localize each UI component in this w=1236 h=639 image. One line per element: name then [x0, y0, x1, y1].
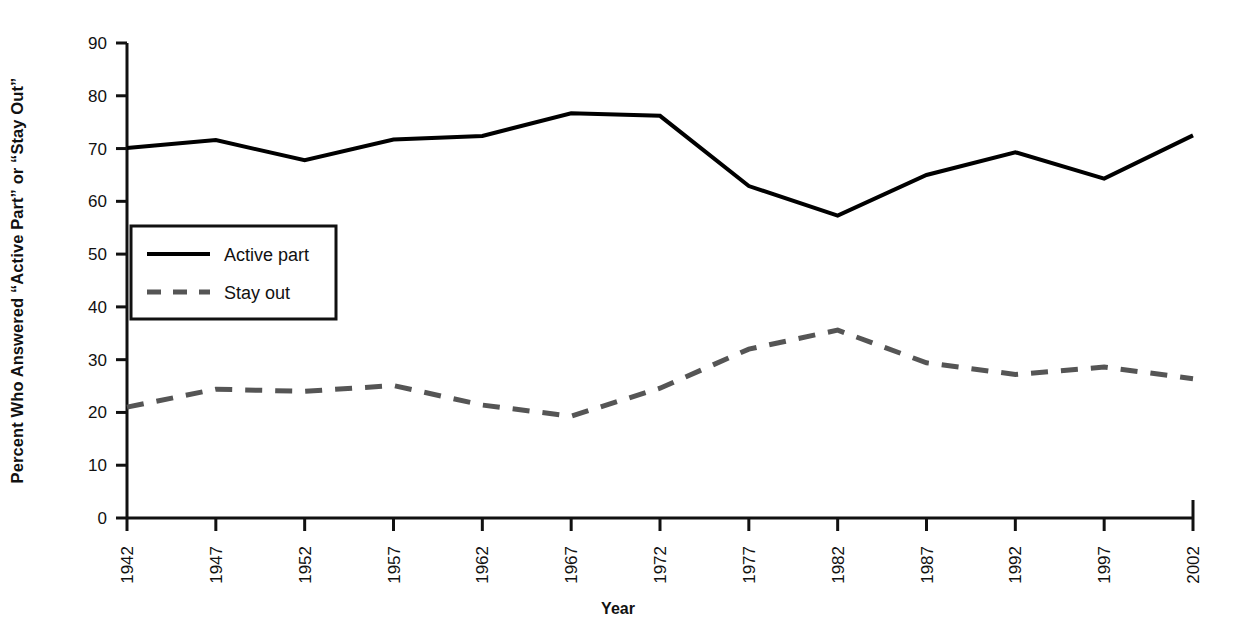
line-chart-plot: 0102030405060708090 19421947195219571962… [0, 0, 1236, 639]
x-tick-label: 1987 [918, 546, 937, 584]
x-axis-ticks: 1942194719521957196219671972197719821987… [118, 518, 1203, 584]
series-line-active-part [127, 113, 1193, 215]
chart-figure: Percent Who Answered “Active Part” or “S… [0, 0, 1236, 639]
x-tick-label: 1957 [385, 546, 404, 584]
x-tick-label: 1967 [562, 546, 581, 584]
x-tick-label: 1977 [740, 546, 759, 584]
x-axis-title: Year [0, 600, 1236, 618]
x-tick-label: 2002 [1184, 546, 1203, 584]
x-tick-label: 1947 [207, 546, 226, 584]
series-line-stay-out [127, 330, 1193, 416]
legend-label-active-part: Active part [224, 245, 309, 265]
x-tick-label: 1962 [473, 546, 492, 584]
y-axis-title: Percent Who Answered “Active Part” or “S… [9, 77, 28, 483]
y-tick-label: 20 [88, 403, 107, 422]
y-tick-label: 40 [88, 298, 107, 317]
legend-box [131, 226, 336, 319]
y-tick-label: 60 [88, 192, 107, 211]
x-tick-label: 1992 [1006, 546, 1025, 584]
x-tick-label: 1952 [296, 546, 315, 584]
y-tick-label: 0 [98, 509, 107, 528]
x-tick-label: 1972 [651, 546, 670, 584]
y-tick-label: 10 [88, 456, 107, 475]
y-tick-label: 70 [88, 140, 107, 159]
y-axis-title-container: Percent Who Answered “Active Part” or “S… [0, 0, 36, 560]
x-tick-label: 1997 [1095, 546, 1114, 584]
x-tick-label: 1942 [118, 546, 137, 584]
y-tick-label: 80 [88, 87, 107, 106]
y-tick-label: 90 [88, 34, 107, 53]
y-axis-ticks: 0102030405060708090 [88, 34, 127, 528]
y-tick-label: 50 [88, 245, 107, 264]
y-tick-label: 30 [88, 351, 107, 370]
legend-label-stay-out: Stay out [224, 283, 290, 303]
chart-legend: Active partStay out [131, 226, 336, 319]
x-tick-label: 1982 [829, 546, 848, 584]
